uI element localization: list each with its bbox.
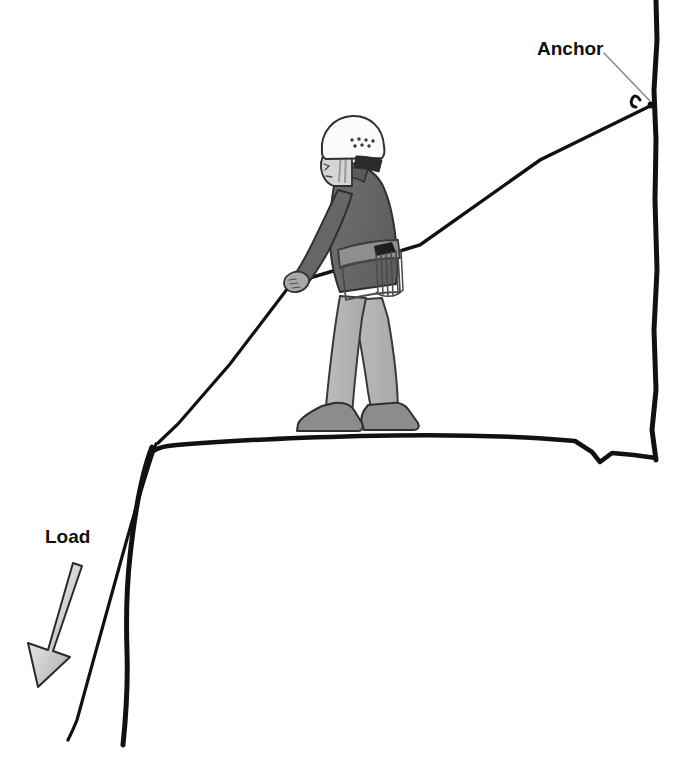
diagram-canvas: Anchor Load — [0, 0, 675, 763]
anchor-point-marker — [648, 102, 655, 109]
load-label: Load — [45, 526, 90, 547]
load-label-group: Load — [28, 526, 90, 687]
anchor-label: Anchor — [537, 38, 604, 59]
climbing-anchor-diagram: Anchor Load — [0, 0, 675, 763]
climber-helmet — [322, 116, 385, 159]
anchor-carabiner-icon — [631, 96, 640, 107]
climber-hand — [284, 272, 309, 293]
cliff-top-edge — [152, 435, 656, 462]
anchor-leader-line — [604, 53, 650, 101]
climber-rear-boot — [361, 403, 419, 430]
rope-loaded-strand — [68, 444, 156, 740]
climber-front-leg — [325, 296, 366, 416]
cliff-right-wall — [652, 0, 657, 460]
anchor-label-group: Anchor — [537, 38, 650, 101]
cliff-left-face — [123, 447, 152, 745]
climber-figure — [284, 116, 419, 431]
load-arrow-icon — [28, 563, 82, 687]
rope-lower-span — [158, 284, 291, 443]
